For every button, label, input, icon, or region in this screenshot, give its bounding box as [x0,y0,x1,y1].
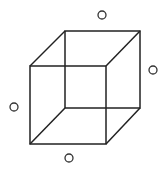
edge-bottom-left [30,108,65,144]
circle-marker-4 [65,154,73,162]
cube-diagram [0,0,166,170]
circle-marker-1 [98,11,106,19]
circle-marker-2 [149,66,157,74]
circle-marker-3 [10,103,18,111]
circle-markers [10,11,157,162]
edge-bottom-right [106,108,140,144]
wireframe-cube [30,31,140,144]
edge-top-right [106,31,140,66]
edge-top-left [30,31,65,66]
